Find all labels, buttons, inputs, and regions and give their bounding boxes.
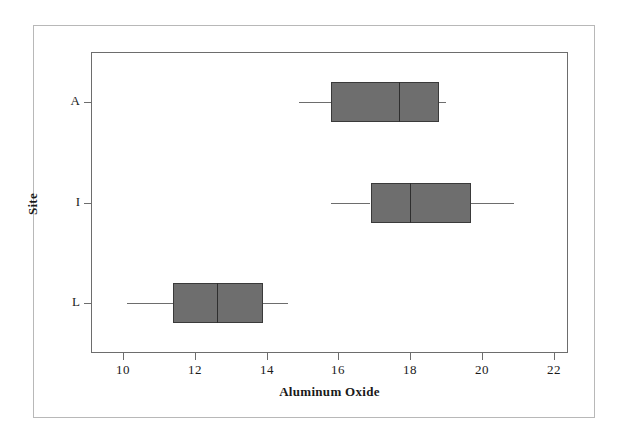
x-tick-label: 20 xyxy=(462,362,502,378)
y-tick-label-a: A xyxy=(52,93,80,109)
x-tick-label: 12 xyxy=(175,362,215,378)
box-iqr xyxy=(371,183,471,223)
x-tick-mark xyxy=(195,353,196,360)
x-tick-mark xyxy=(554,353,555,360)
x-tick-label: 14 xyxy=(247,362,287,378)
y-tick-label-i: I xyxy=(52,194,80,210)
whisker-high xyxy=(263,303,288,304)
x-axis-title: Aluminum Oxide xyxy=(91,384,568,400)
box-iqr xyxy=(173,283,263,323)
whisker-low xyxy=(127,303,174,304)
y-axis-title: Site xyxy=(25,164,41,244)
x-tick-label: 22 xyxy=(534,362,574,378)
x-tick-label: 18 xyxy=(390,362,430,378)
whisker-high xyxy=(439,102,446,103)
x-tick-mark xyxy=(338,353,339,360)
box-iqr xyxy=(331,82,439,122)
y-tick-mark xyxy=(84,303,91,304)
x-tick-mark xyxy=(410,353,411,360)
whisker-low xyxy=(299,102,331,103)
x-tick-label: 10 xyxy=(103,362,143,378)
whisker-low xyxy=(331,203,370,204)
x-tick-mark xyxy=(482,353,483,360)
median-line xyxy=(410,183,411,223)
median-line xyxy=(399,82,400,122)
median-line xyxy=(217,283,218,323)
y-tick-mark xyxy=(84,203,91,204)
x-tick-label: 16 xyxy=(318,362,358,378)
x-tick-mark xyxy=(267,353,268,360)
whisker-high xyxy=(471,203,514,204)
x-tick-mark xyxy=(123,353,124,360)
y-tick-mark xyxy=(84,102,91,103)
y-tick-label-l: L xyxy=(52,294,80,310)
figure-canvas: 10121416182022 Aluminum Oxide AIL Site xyxy=(0,0,622,445)
